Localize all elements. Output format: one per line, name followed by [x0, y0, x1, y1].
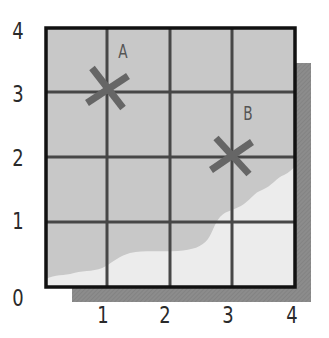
y-tick-label-3: 3 [12, 83, 23, 106]
y-tick-label-1: 1 [12, 210, 23, 233]
point-label-a: A [118, 42, 127, 61]
grid-map [0, 0, 329, 338]
point-label-b: B [243, 104, 252, 123]
y-tick-label-0: 0 [12, 287, 23, 310]
x-tick-label-2: 2 [159, 304, 170, 327]
x-tick-label-1: 1 [97, 304, 108, 327]
frame-shadow-bottom [72, 287, 311, 302]
x-tick-label-4: 4 [286, 304, 297, 327]
frame-shadow-right [295, 63, 311, 302]
y-tick-label-2: 2 [12, 147, 23, 170]
y-tick-label-4: 4 [12, 20, 23, 43]
x-tick-label-3: 3 [222, 304, 233, 327]
